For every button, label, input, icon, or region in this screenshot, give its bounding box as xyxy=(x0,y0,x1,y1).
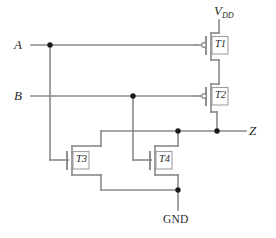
ground-rail-wire xyxy=(101,190,178,210)
supply-label-vdd: VDD xyxy=(214,4,233,17)
junction-dot-b-branch xyxy=(130,93,135,98)
port-label-a: A xyxy=(14,38,22,51)
supply-label-vdd-base: V xyxy=(214,3,222,18)
input-a-wire xyxy=(31,45,196,160)
vdd-rail-wire xyxy=(211,20,219,38)
device-label-t3: T3 xyxy=(76,154,87,165)
junction-dot-ground xyxy=(175,187,180,192)
device-label-t1: T1 xyxy=(215,39,226,50)
t2-gate-inversion-bubble-icon xyxy=(202,94,207,99)
device-label-t2: T2 xyxy=(215,90,226,101)
ground-label-gnd: GND xyxy=(163,214,189,226)
junction-dot-output xyxy=(214,128,219,133)
junction-dot-a-branch xyxy=(47,42,52,47)
junction-dot-t4-drain xyxy=(175,128,180,133)
schematic-drawing xyxy=(0,0,276,238)
t2-to-output-wire xyxy=(211,104,217,131)
port-label-z: Z xyxy=(249,124,256,137)
supply-label-vdd-subscript: DD xyxy=(222,11,233,20)
t1-t2-interconnect-wire xyxy=(211,53,219,89)
device-label-t4: T4 xyxy=(159,154,170,165)
input-b-wire xyxy=(31,96,196,160)
t1-gate-inversion-bubble-icon xyxy=(202,43,207,48)
port-label-b: B xyxy=(14,89,22,102)
schematic-canvas: A B Z VDD GND T1 T2 T3 T4 xyxy=(0,0,276,238)
